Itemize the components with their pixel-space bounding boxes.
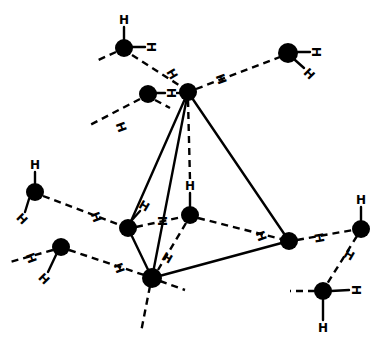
h-label: H: [311, 232, 327, 244]
hbond-vbottom-down: [141, 286, 150, 332]
bond-w3-h-down: [295, 60, 304, 68]
h-label: H: [309, 47, 323, 57]
hbond-w1-left: [96, 52, 116, 61]
h-label: H: [111, 261, 128, 275]
bond-w4-h-down: [25, 199, 29, 212]
h-label: H: [35, 270, 52, 287]
h-label: H: [253, 229, 270, 243]
atom-water-4: [26, 183, 44, 201]
atom-water-7: [314, 282, 332, 300]
h-label: H: [159, 249, 175, 266]
h-label: H: [213, 72, 230, 86]
atom-water-6: [352, 220, 370, 238]
h-label: H: [30, 158, 40, 172]
molecular-diagram: H H H H H H H H H H H H H H H H H H H H …: [0, 0, 382, 342]
hbond-w2-left: [88, 99, 140, 126]
atom-vertex-left: [119, 219, 137, 237]
hbond-apex-w3: [196, 57, 280, 89]
tetrahedron-edges: [128, 92, 289, 278]
atom-water-1: [115, 39, 133, 57]
hbond-w2-down: [155, 100, 170, 108]
atoms: [26, 39, 370, 300]
atom-water-3: [278, 43, 298, 63]
bond-w7-h-right: [331, 290, 349, 291]
h-label: H: [318, 321, 328, 335]
hbond-apex-vcenter: [188, 100, 190, 180]
hbond-w4-vleft: [43, 196, 120, 225]
h-label: H: [341, 246, 357, 263]
h-label: H: [155, 216, 169, 226]
h-label: H: [185, 179, 195, 193]
h-label: H: [144, 42, 158, 52]
atom-water-5: [52, 238, 70, 256]
h-label: H: [23, 251, 40, 265]
atom-vertex-right: [280, 232, 298, 250]
atom-apex: [179, 83, 197, 101]
h-label: H: [113, 120, 130, 134]
h-label: H: [13, 210, 30, 227]
hbond-vbottom-right: [160, 281, 185, 290]
h-label: H: [88, 210, 105, 224]
atom-water-2: [139, 85, 157, 103]
bond-w5-h: [48, 255, 56, 272]
atom-vertex-bottom: [142, 268, 162, 288]
h-label: H: [164, 88, 178, 98]
h-label: H: [349, 285, 363, 295]
h-label: H: [163, 66, 180, 82]
edge-apex-vbottom: [152, 92, 188, 278]
hbond-w5-vbottom: [69, 250, 144, 275]
hbond-w6-w7: [327, 236, 357, 284]
h-label: H: [356, 193, 366, 207]
atom-vertex-center: [181, 206, 199, 224]
h-label: H: [119, 13, 129, 27]
